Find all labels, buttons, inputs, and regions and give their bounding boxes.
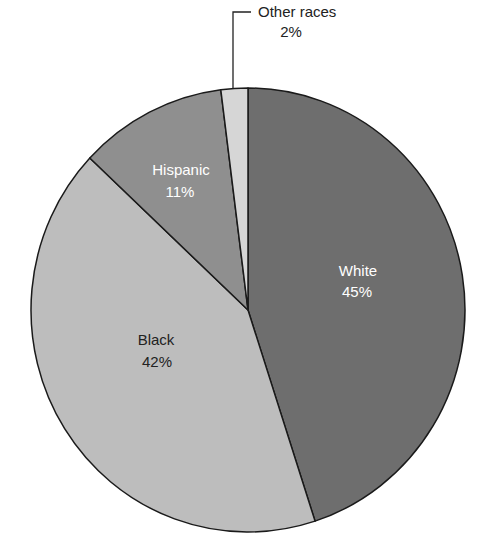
label-hispanic-name: Hispanic	[152, 161, 210, 178]
other-races-leader-line	[233, 12, 251, 88]
label-white-pct: 45%	[342, 283, 372, 300]
label-white-name: White	[339, 262, 377, 279]
label-other-races-name: Other races	[258, 3, 336, 20]
label-black-name: Black	[138, 331, 175, 348]
label-black-pct: 42%	[142, 353, 172, 370]
label-hispanic-pct: 11%	[166, 183, 195, 200]
pie-chart: Other races 2% White 45% Black 42% Hispa…	[0, 0, 487, 558]
label-other-races-pct: 2%	[280, 23, 302, 40]
